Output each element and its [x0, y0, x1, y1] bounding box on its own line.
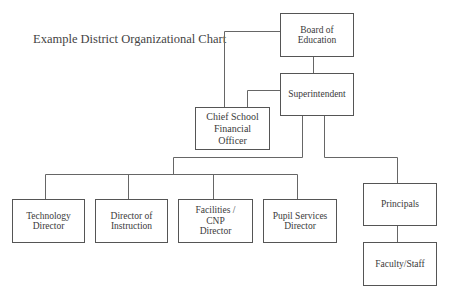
node-label: Pupil Services Director [273, 211, 328, 232]
node-superintendent: Superintendent [280, 73, 354, 116]
node-label: Director of Instruction [111, 211, 153, 232]
connector-board-cfo [225, 32, 281, 108]
node-pupil-services-director: Pupil Services Director [263, 199, 337, 243]
node-director-of-instruction: Director of Instruction [95, 199, 168, 243]
node-board-of-education: Board of Education [280, 13, 354, 57]
node-chief-school-financial-officer: Chief School Financial Officer [195, 107, 270, 150]
node-technology-director: Technology Director [12, 199, 85, 243]
node-principals: Principals [363, 183, 437, 226]
node-facilities-cnp-director: Facilities / CNP Director [178, 199, 253, 243]
node-label: Chief School Financial Officer [206, 111, 259, 147]
node-label: Faculty/Staff [375, 259, 424, 270]
node-label: Facilities / CNP Director [196, 205, 236, 237]
connector-superintendent-principals [325, 116, 398, 183]
connector-superintendent-cfo [248, 91, 281, 108]
node-label: Principals [381, 199, 419, 210]
node-label: Technology Director [26, 211, 71, 232]
node-label: Board of Education [298, 25, 337, 46]
node-faculty-staff: Faculty/Staff [363, 242, 437, 286]
node-label: Superintendent [288, 89, 346, 100]
